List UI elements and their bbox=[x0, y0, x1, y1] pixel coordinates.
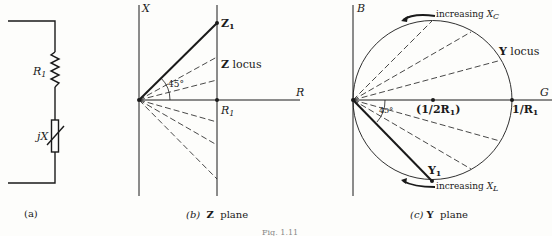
figure-canvas bbox=[0, 0, 552, 236]
panel-c-caption: (c) Y plane bbox=[410, 210, 468, 220]
z-plane-diagram bbox=[137, 5, 300, 196]
circuit-wire-top bbox=[8, 21, 55, 52]
y1-dot bbox=[430, 179, 434, 183]
x-axis-label: X bbox=[142, 3, 150, 14]
edge-dot bbox=[510, 98, 514, 102]
increasing-xc-label: increasing XC bbox=[436, 10, 499, 21]
g-axis-label: G bbox=[540, 87, 549, 98]
z-locus-label: Z locus bbox=[221, 59, 262, 70]
origin-dot bbox=[137, 98, 141, 102]
circuit-wire-bottom bbox=[8, 152, 55, 183]
jx-label: jX bbox=[37, 131, 48, 142]
panel-a-caption: (a) bbox=[24, 209, 38, 219]
inv-r1-label: 1/R1 bbox=[512, 104, 538, 116]
r1-axis-label: R1 bbox=[221, 105, 234, 118]
center-dot bbox=[431, 98, 435, 102]
z1-dot bbox=[215, 21, 219, 25]
resistor-r1-icon bbox=[51, 52, 59, 87]
arrowhead-xl-icon bbox=[401, 178, 407, 184]
b-axis-label: B bbox=[357, 3, 365, 14]
y-locus-label: Y locus bbox=[499, 46, 539, 57]
figure-caption: Fig. 1.11 bbox=[262, 229, 298, 236]
angle-45-label: 45° bbox=[379, 107, 393, 115]
circuit-diagram bbox=[8, 21, 64, 183]
z1-label: Z1 bbox=[221, 18, 235, 30]
r-axis-label: R bbox=[296, 87, 304, 98]
origin-dot bbox=[351, 98, 355, 102]
z-dashed-rays bbox=[139, 57, 217, 179]
increasing-xl-label: increasing XL bbox=[436, 182, 498, 193]
arrow-increasing-xl-icon bbox=[403, 181, 435, 187]
y-plane-diagram bbox=[351, 5, 552, 196]
angle-45-label: 45° bbox=[168, 80, 184, 89]
arrow-increasing-xc-icon bbox=[403, 15, 435, 20]
panel-b-caption: (b) Z plane bbox=[186, 210, 248, 220]
r1-dot bbox=[215, 98, 219, 102]
half-r1-label: (1/2R1) bbox=[416, 104, 460, 116]
variable-arrow-icon bbox=[47, 126, 64, 145]
y1-label: Y1 bbox=[428, 165, 441, 177]
arrowhead-xc-icon bbox=[401, 16, 408, 22]
y-dashed-rays bbox=[353, 21, 500, 169]
r1-label: R1 bbox=[33, 66, 46, 79]
